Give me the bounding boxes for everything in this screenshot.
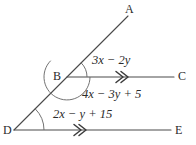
geometry-figure: A B C D E 3x − 2y 4x − 3y + 5 2x − y + 1…	[0, 0, 196, 145]
point-label-c: C	[178, 70, 186, 82]
angle-expression-bde: 2x − y + 15	[53, 108, 112, 121]
angle-arc-ABC	[81, 63, 87, 77]
point-label-d: D	[3, 124, 12, 136]
angle-expression-abc: 3x − 2y	[92, 54, 130, 67]
angle-arc-BDE	[35, 109, 44, 130]
angle-expression-abd: 4x − 3y + 5	[82, 88, 141, 101]
geometry-canvas	[0, 0, 196, 145]
point-label-b: B	[53, 70, 61, 82]
point-label-e: E	[175, 124, 182, 136]
point-label-a: A	[125, 3, 134, 15]
